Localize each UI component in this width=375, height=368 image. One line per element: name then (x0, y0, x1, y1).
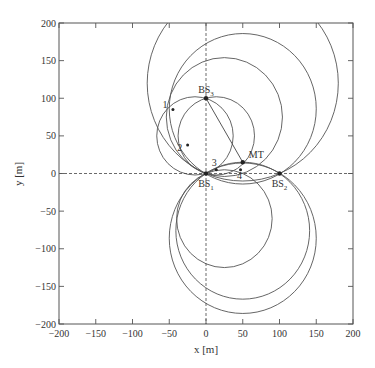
intersection-point-2 (186, 143, 189, 146)
x-axis-label: x [m] (194, 343, 218, 355)
circle-small-lens-b (166, 58, 282, 177)
point-label-subscript: 2 (284, 184, 288, 192)
circle-left-medium (157, 97, 233, 175)
x-tick-label: 0 (204, 328, 209, 339)
x-tick-label: −50 (161, 328, 177, 339)
point-label-subscript: 1 (210, 184, 214, 192)
x-tick-label: −200 (49, 328, 70, 339)
circle-large-lower (169, 163, 316, 314)
intersection-label-1: 1 (162, 99, 167, 110)
x-tick-label: 50 (238, 328, 248, 339)
point-BS3 (204, 96, 208, 100)
y-tick-label: −200 (35, 319, 56, 330)
intersection-point-1 (171, 108, 174, 111)
point-label-BS2: BS2 (272, 178, 288, 192)
point-label-MT: MT (249, 149, 264, 160)
x-tick-label: 100 (272, 328, 287, 339)
point-BS2 (277, 171, 281, 175)
y-tick-label: 0 (51, 168, 56, 179)
x-tick-label: 200 (346, 328, 361, 339)
intersection-label-3: 3 (212, 157, 217, 168)
intersection-label-2: 2 (177, 142, 182, 153)
chart-svg: −200−150−100−50050100150200−200−150−100−… (0, 0, 375, 368)
point-label-subscript: 3 (210, 90, 214, 98)
x-tick-label: −100 (122, 328, 143, 339)
marks-layer: BS1BS2BS3MT1234 (162, 84, 287, 191)
segment-bs3-to-mt (206, 98, 243, 162)
y-tick-label: −150 (35, 281, 56, 292)
intersection-point-3 (215, 168, 218, 171)
x-tick-label: −150 (85, 328, 106, 339)
y-tick-label: 50 (46, 130, 56, 141)
y-tick-label: 100 (41, 93, 56, 104)
circle-lens-upper (176, 162, 310, 299)
intersection-label-4: 4 (237, 170, 242, 181)
x-tick-label: 150 (309, 328, 324, 339)
y-axis-label: y [m] (12, 162, 24, 186)
y-tick-label: −100 (35, 243, 56, 254)
y-tick-label: 200 (41, 18, 56, 29)
point-MT (241, 160, 245, 164)
chart-container: −200−150−100−50050100150200−200−150−100−… (0, 0, 375, 368)
y-tick-label: −50 (40, 206, 56, 217)
point-BS1 (204, 171, 208, 175)
y-tick-label: 150 (41, 55, 56, 66)
circles-layer (147, 0, 338, 313)
